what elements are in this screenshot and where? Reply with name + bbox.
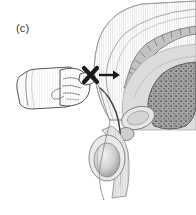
right-arrow-icon [99, 71, 120, 80]
figure-panel: (c) [0, 0, 196, 215]
annotation-marker-layer [0, 0, 196, 215]
cross-mark-icon [84, 68, 97, 82]
